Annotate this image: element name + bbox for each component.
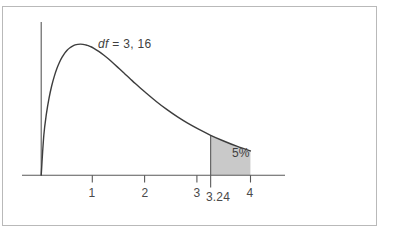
critical-value-label: 3.24 [206, 190, 230, 204]
df-symbol: df [98, 37, 109, 51]
x-tick-label-4: 4 [247, 186, 254, 200]
figure-root: 1 2 3 4 df = 3, 16 5% 3.24 [0, 0, 400, 242]
x-tick-label-2: 2 [142, 186, 149, 200]
tail-percent-label: 5% [232, 146, 250, 160]
df-values: = 3, 16 [109, 37, 152, 51]
df-annotation-label: df = 3, 16 [98, 37, 151, 51]
f-distribution-plot [0, 0, 400, 242]
x-tick-label-1: 1 [89, 186, 96, 200]
x-tick-label-3: 3 [194, 186, 201, 200]
